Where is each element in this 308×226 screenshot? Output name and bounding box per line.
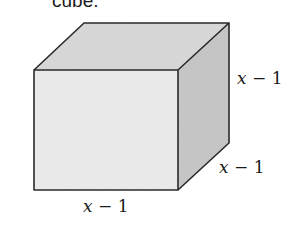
cube-diagram [0, 0, 308, 226]
label-height: x − 1 [237, 68, 282, 88]
label-depth: x − 1 [219, 157, 264, 177]
cube-front-face [34, 70, 178, 190]
label-height-rest: − 1 [247, 68, 283, 88]
label-height-var: x [237, 68, 247, 88]
label-width-rest: − 1 [93, 196, 129, 216]
label-depth-var: x [219, 157, 229, 177]
label-width: x − 1 [83, 196, 128, 216]
label-width-var: x [83, 196, 93, 216]
label-depth-rest: − 1 [229, 157, 265, 177]
